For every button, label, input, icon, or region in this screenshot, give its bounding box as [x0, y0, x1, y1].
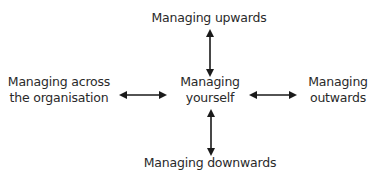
double-arrow-icon-up — [206, 29, 214, 77]
double-arrow-icon-left — [119, 91, 167, 99]
double-arrow-icon-down — [207, 109, 215, 156]
arrows-layer — [0, 0, 383, 178]
double-arrow-icon-right — [249, 91, 297, 99]
